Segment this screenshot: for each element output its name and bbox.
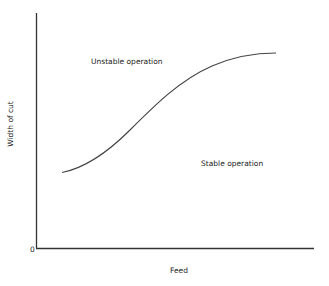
origin-label: 0 (30, 245, 35, 254)
stable-region-label: Stable operation (201, 159, 263, 168)
x-axis-label: Feed (170, 266, 188, 275)
unstable-region-label: Unstable operation (91, 57, 163, 66)
stability-diagram: 0 Feed Width of cut Unstable operation S… (0, 0, 329, 286)
y-axis-label: Width of cut (6, 101, 15, 147)
stability-boundary-curve (62, 53, 276, 173)
